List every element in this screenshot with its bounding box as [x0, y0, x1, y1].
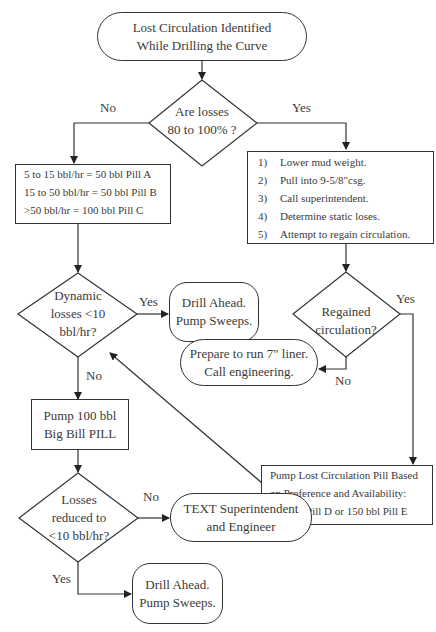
decision-reduced-text: Losses reduced to <10 bbl/hr? [33, 491, 125, 545]
steps-list: 1)Lower mud weight. 2)Pull into 9-5/8"cs… [258, 153, 410, 243]
pump-big-pill-line1: Pump 100 bbl [44, 407, 117, 425]
pump-big-pill-box: Pump 100 bbl Big Bill PILL [31, 399, 129, 450]
drill-ahead-1-line1: Drill Ahead. [182, 294, 246, 312]
text-super-line1: TEXT Superintendent [184, 500, 299, 518]
start-text-line1: Lost Circulation Identified [133, 19, 272, 37]
steps-item: 2)Pull into 9-5/8"csg. [258, 171, 410, 189]
drill-ahead-node-2: Drill Ahead. Pump Sweeps. [132, 563, 223, 624]
text-super-line2: and Engineer [207, 518, 276, 536]
edge-label-dynamic-no: No [86, 368, 102, 384]
decision-reduced-line2: reduced to [33, 509, 125, 527]
decision-reduced-line3: <10 bbl/hr? [33, 527, 125, 545]
step-text: Attempt to regain circulation. [280, 225, 410, 243]
drill-ahead-2-line1: Drill Ahead. [145, 576, 209, 594]
decision-dynamic-line3: bbl/hr? [33, 323, 123, 341]
decision-reduced-line1: Losses [33, 491, 125, 509]
prepare-liner-line2: Call engineering. [204, 363, 294, 381]
decision-losses-line2: 80 to 100% ? [152, 121, 252, 139]
decision-dynamic-line2: losses <10 [33, 305, 123, 323]
edge-label-reduced-yes: Yes [52, 571, 71, 587]
edge-label-dynamic-yes: Yes [139, 294, 158, 310]
decision-regained-line2: circulation? [301, 321, 391, 339]
decision-regained-text: Regained circulation? [301, 303, 391, 339]
step-number: 4) [258, 207, 280, 225]
decision-losses-line1: Are losses [152, 103, 252, 121]
pump-big-pill-line2: Big Bill PILL [44, 425, 116, 443]
drill-ahead-2-line2: Pump Sweeps. [139, 594, 216, 612]
steps-item: 5)Attempt to regain circulation. [258, 225, 410, 243]
edge-label-losses-no: No [100, 100, 116, 116]
step-text: Call superintendent. [280, 189, 369, 207]
drill-ahead-1-line2: Pump Sweeps. [176, 312, 253, 330]
step-number: 2) [258, 171, 280, 189]
step-number: 3) [258, 189, 280, 207]
drill-ahead-node-1: Drill Ahead. Pump Sweeps. [169, 282, 259, 342]
edge-label-regained-yes: Yes [396, 291, 415, 307]
edge-label-losses-yes: Yes [292, 100, 311, 116]
pump-lc-pill-line1: Pump Lost Circulation Pill Based [270, 466, 418, 484]
decision-dynamic-text: Dynamic losses <10 bbl/hr? [33, 287, 123, 341]
steps-item: 4)Determine static loses. [258, 207, 410, 225]
start-text-line2: While Drilling the Curve [137, 37, 267, 55]
steps-item: 3)Call superintendent. [258, 189, 410, 207]
pill-table-line1: 5 to 15 bbl/hr = 50 bbl Pill A [24, 165, 151, 183]
prepare-liner-line1: Prepare to run 7" liner. [190, 345, 308, 363]
step-text: Lower mud weight. [280, 153, 366, 171]
step-text: Determine static loses. [280, 207, 380, 225]
pill-table-line2: 15 to 50 bbl/hr = 50 bbl Pill B [24, 183, 157, 201]
steps-box: 1)Lower mud weight. 2)Pull into 9-5/8"cs… [247, 151, 434, 244]
decision-regained-line1: Regained [301, 303, 391, 321]
prepare-liner-node: Prepare to run 7" liner. Call engineerin… [180, 339, 318, 386]
edge-label-reduced-no: No [143, 489, 159, 505]
decision-dynamic-line1: Dynamic [33, 287, 123, 305]
pill-table-box: 5 to 15 bbl/hr = 50 bbl Pill A 15 to 50 … [15, 164, 171, 224]
step-number: 1) [258, 153, 280, 171]
steps-item: 1)Lower mud weight. [258, 153, 410, 171]
step-text: Pull into 9-5/8"csg. [280, 171, 365, 189]
text-superintendent-node: TEXT Superintendent and Engineer [170, 493, 312, 542]
start-node: Lost Circulation Identified While Drilli… [97, 12, 307, 61]
step-number: 5) [258, 225, 280, 243]
edge-label-regained-no: No [335, 373, 351, 389]
pill-table-line3: >50 bbl/hr = 100 bbl Pill C [24, 201, 143, 219]
decision-losses-text: Are losses 80 to 100% ? [152, 103, 252, 139]
